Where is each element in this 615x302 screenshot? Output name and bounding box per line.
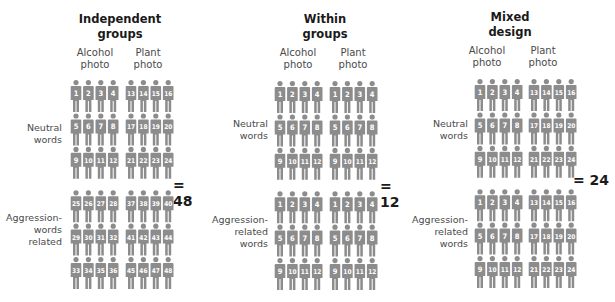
participant-number: 38: [139, 200, 147, 208]
participant-number: 12: [513, 266, 521, 274]
participant-number: 9: [74, 156, 79, 165]
person-icon: 8: [512, 223, 523, 255]
person-icon: 10: [287, 148, 298, 180]
person-icon: 44: [163, 224, 174, 256]
participant-number: 2: [345, 200, 350, 209]
person-icon: 33: [71, 257, 82, 289]
person-icon: 18: [541, 112, 552, 144]
person-icon: 22: [541, 146, 552, 178]
participant-number: 18: [542, 122, 550, 130]
person-icon: 11: [96, 147, 107, 179]
participant-number: 37: [127, 200, 135, 208]
participant-number: 48: [164, 267, 172, 275]
participant-number: 11: [501, 266, 509, 274]
participant-number: 23: [152, 157, 160, 165]
person-icon: 47: [151, 257, 162, 289]
person-icon: 4: [512, 79, 523, 111]
participant-number: 15: [555, 89, 563, 97]
participant-number: 22: [542, 156, 550, 164]
participant-number: 8: [315, 234, 320, 243]
person-icon: 9: [275, 148, 286, 180]
person-icon: 16: [566, 79, 577, 111]
participant-number: 2: [290, 200, 295, 209]
participant-number: 25: [72, 200, 80, 208]
person-icon: 9: [71, 147, 82, 179]
participant-number: 8: [111, 122, 116, 131]
participant-number: 2: [86, 89, 91, 98]
participant-grid: 1234567891011121314151617181920212223241…: [410, 0, 615, 302]
person-icon: 21: [529, 256, 540, 288]
person-icon: 6: [83, 113, 94, 145]
participant-number: 2: [290, 90, 295, 99]
person-icon: 45: [126, 257, 137, 289]
person-icon: 4: [367, 81, 378, 113]
participant-number: 36: [109, 267, 117, 275]
person-icon: 17: [126, 113, 137, 145]
participant-number: 13: [530, 199, 538, 207]
participant-number: 12: [368, 268, 376, 276]
participant-number: 5: [478, 232, 483, 241]
person-icon: 2: [83, 80, 94, 112]
participant-number: 3: [502, 198, 507, 207]
participant-number: 10: [84, 157, 92, 165]
person-icon: 1: [275, 81, 286, 113]
person-icon: 17: [529, 112, 540, 144]
person-icon: 37: [126, 190, 137, 222]
participant-grid: 1234567891011121234567891011121234567891…: [205, 0, 410, 302]
person-icon: 3: [300, 191, 311, 223]
person-icon: 22: [138, 147, 149, 179]
person-icon: 9: [330, 258, 341, 290]
person-icon: 21: [529, 146, 540, 178]
person-icon: 11: [355, 258, 366, 290]
person-icon: 14: [541, 189, 552, 221]
participant-number: 28: [109, 200, 117, 208]
participant-number: 26: [84, 200, 92, 208]
person-icon: 8: [367, 114, 378, 146]
person-icon: 19: [554, 223, 565, 255]
person-icon: 27: [96, 190, 107, 222]
person-icon: 35: [96, 257, 107, 289]
participant-number: 19: [555, 233, 563, 241]
person-icon: 7: [300, 114, 311, 146]
person-icon: 19: [151, 113, 162, 145]
participant-number: 17: [530, 233, 538, 241]
person-icon: 6: [342, 225, 353, 257]
participant-number: 21: [530, 266, 538, 274]
person-icon: 1: [71, 80, 82, 112]
participant-number: 47: [152, 267, 160, 275]
person-icon: 14: [541, 79, 552, 111]
participant-number: 6: [290, 123, 295, 132]
participant-number: 1: [333, 90, 338, 99]
person-icon: 16: [163, 80, 174, 112]
person-icon: 5: [330, 114, 341, 146]
participant-number: 15: [152, 90, 160, 98]
person-icon: 12: [312, 148, 323, 180]
participant-number: 9: [333, 157, 338, 166]
participant-number: 2: [490, 198, 495, 207]
person-icon: 32: [108, 224, 119, 256]
person-icon: 4: [512, 189, 523, 221]
participant-number: 5: [278, 234, 283, 243]
person-icon: 4: [312, 81, 323, 113]
person-icon: 1: [475, 189, 486, 221]
person-icon: 3: [355, 81, 366, 113]
participant-number: 7: [502, 121, 507, 130]
participant-number: 16: [567, 89, 575, 97]
participant-number: 5: [74, 122, 79, 131]
person-icon: 23: [554, 256, 565, 288]
participant-number: 10: [288, 268, 296, 276]
participant-number: 4: [370, 90, 375, 99]
person-icon: 1: [275, 191, 286, 223]
person-icon: 20: [163, 113, 174, 145]
participant-number: 39: [152, 200, 160, 208]
participant-number: 6: [290, 234, 295, 243]
person-icon: 18: [541, 223, 552, 255]
participant-number: 42: [139, 234, 147, 242]
person-icon: 10: [342, 258, 353, 290]
participant-number: 31: [97, 234, 105, 242]
person-icon: 31: [96, 224, 107, 256]
participant-number: 11: [97, 157, 105, 165]
participant-number: 1: [333, 200, 338, 209]
participant-number: 20: [164, 123, 172, 131]
participant-number: 2: [490, 88, 495, 97]
